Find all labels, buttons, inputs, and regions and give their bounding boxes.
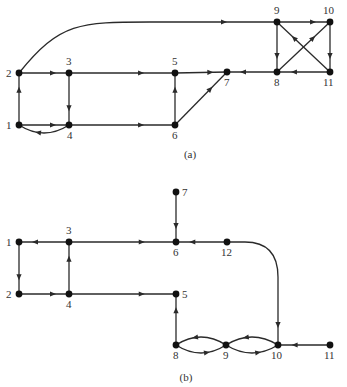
node-7: 7 [173,186,188,198]
node-label: 9 [274,4,280,16]
edge-2-to-4 [19,291,69,296]
node-label: 8 [274,76,280,88]
node-dot [224,69,231,76]
node-label: 5 [182,288,188,300]
edge-6-to-5 [172,73,177,125]
node-dot [173,291,180,298]
edge-1-to-2 [16,242,21,294]
node-5: 5 [172,55,179,76]
node-label: 11 [324,349,335,361]
arrowhead-icon [172,87,177,93]
node-dot [327,342,334,349]
edge-9-to-8 [176,334,226,345]
node-8: 8 [173,342,180,361]
node-2: 2 [6,67,22,79]
node-label: 2 [6,67,12,79]
node-8: 8 [274,69,281,88]
node-6: 6 [172,122,179,141]
node-1: 1 [6,236,22,248]
edge-3-to-1 [19,239,69,244]
arrowhead-icon [32,239,38,244]
node-6: 6 [173,239,180,258]
node-dot [274,19,281,26]
directed-graph-figure: 1234567891011(a) 123456789101112(b) [0,0,347,387]
node-dot [16,291,23,298]
node-label: 1 [6,236,12,248]
edge-1-to-4 [19,122,69,127]
arrowhead-icon [139,291,145,296]
edge-4-to-5 [69,291,176,296]
node-4: 4 [66,122,73,141]
arrowhead-icon [243,334,249,339]
edge-4-to-1 [19,125,69,136]
arrowhead-icon [274,53,279,59]
node-label: 6 [173,246,179,258]
node-label: 7 [182,186,188,198]
edge-curve [19,125,69,133]
edge-8-to-9 [176,345,226,356]
node-label: 2 [6,288,12,300]
edge-1-to-2 [16,73,21,125]
node-dot [16,70,23,77]
node-label: 4 [67,129,73,141]
node-dot [16,239,23,246]
arrowhead-icon [192,334,198,339]
node-label: 4 [66,298,72,310]
edge-3-to-6 [69,239,176,244]
edge-arc [19,22,277,73]
node-dot [224,239,231,246]
node-4: 4 [66,291,73,310]
edge-9-to-8 [274,22,279,72]
edge-5-to-7 [175,70,227,75]
arrowhead-icon [50,291,56,296]
arrowhead-icon [291,69,297,74]
arrowhead-icon [310,19,316,24]
arrowhead-icon [173,307,178,313]
node-label: 3 [66,55,72,67]
arrowhead-icon [221,19,227,24]
node-7: 7 [224,69,231,88]
node-label: 11 [323,76,334,88]
diagram-caption: (b) [180,371,193,384]
node-label: 5 [172,55,178,67]
edge-line [175,72,227,73]
node-9: 9 [274,4,281,25]
edge-curve [176,337,226,345]
node-2: 2 [6,288,22,300]
node-dot [172,70,179,77]
edge-11-to-10 [278,342,330,347]
edge-corner [227,242,278,345]
node-dot [66,122,73,129]
edge-7-to-6 [173,192,178,242]
node-dot [66,239,73,246]
node-label: 8 [173,349,179,361]
diagram-b: 123456789101112(b) [6,186,335,384]
node-9: 9 [223,342,230,361]
arrowhead-icon [50,70,56,75]
node-dot [66,291,73,298]
arrowhead-icon [292,342,298,347]
node-label: 12 [221,246,232,258]
edges [16,19,332,135]
node-label: 10 [323,4,335,16]
edge-12-to-10 [227,242,281,345]
node-dot [66,70,73,77]
node-dot [172,122,179,129]
node-1: 1 [6,119,22,131]
arrowhead-icon [204,350,210,355]
node-5: 5 [173,288,188,300]
node-dot [223,342,230,349]
node-label: 6 [172,129,178,141]
diagram-caption: (a) [184,148,197,161]
node-dot [16,122,23,129]
edge-4-to-3 [66,242,71,294]
edge-12-to-6 [176,239,227,244]
arrowhead-icon [16,274,21,280]
edge-3-to-4 [66,73,71,125]
edge-curve [226,337,278,345]
edges [16,192,330,356]
node-label: 7 [224,76,230,88]
arrowhead-icon [189,239,195,244]
edge-10-to-9 [226,334,278,345]
edge-4-to-6 [69,122,175,127]
